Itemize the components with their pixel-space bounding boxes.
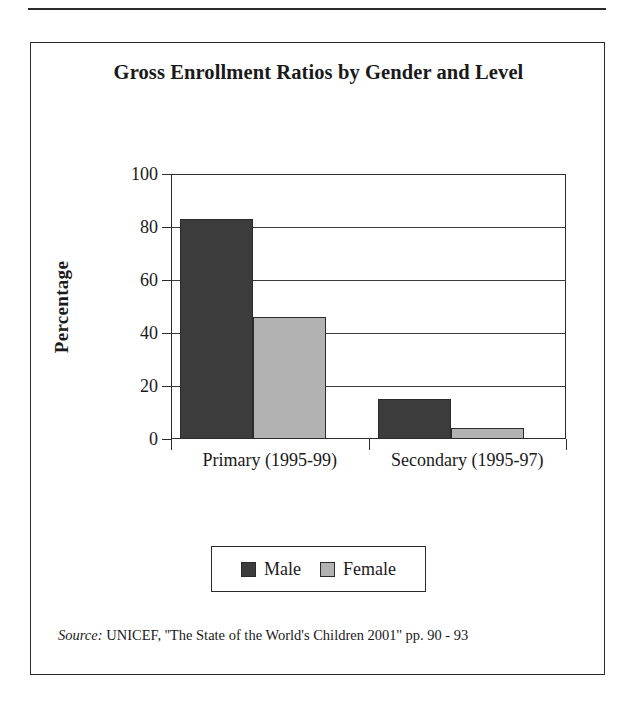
y-axis-tick [162, 333, 171, 334]
legend-swatch-female [320, 562, 335, 577]
legend-label: Male [264, 559, 301, 580]
bar-female-0 [253, 317, 326, 439]
top-horizontal-rule [28, 8, 606, 10]
y-axis-tick-label: 40 [94, 323, 158, 344]
bar-male-0 [180, 219, 253, 439]
source-text: UNICEF, ''The State of the World's Child… [103, 627, 469, 643]
y-axis-tick-label: 100 [94, 164, 158, 185]
x-axis-separator [369, 439, 370, 450]
x-axis-separator [171, 439, 172, 450]
y-axis-title-label: Percentage [51, 260, 73, 352]
source-label: Source: [58, 627, 103, 643]
figure-page: Gross Enrollment Ratios by Gender and Le… [0, 0, 636, 716]
y-axis-title: Percentage [49, 174, 75, 439]
figure-frame: Gross Enrollment Ratios by Gender and Le… [30, 42, 605, 675]
bar-female-1 [451, 428, 524, 439]
x-axis-category-label: Secondary (1995-97) [391, 450, 543, 471]
y-axis-tick-label: 20 [94, 376, 158, 397]
y-axis-tick [162, 386, 171, 387]
y-axis-tick [162, 439, 171, 440]
plot-area: 020406080100 Primary (1995-99)Secondary … [171, 174, 566, 439]
x-axis-category-label: Primary (1995-99) [203, 450, 337, 471]
y-axis-tick-label: 0 [94, 429, 158, 450]
legend-swatch-male [241, 562, 256, 577]
legend-item-male: Male [241, 559, 301, 580]
chart-legend: MaleFemale [211, 546, 426, 592]
chart-title: Gross Enrollment Ratios by Gender and Le… [91, 59, 546, 87]
legend-item-female: Female [320, 559, 396, 580]
y-axis-tick-label: 60 [94, 270, 158, 291]
y-axis-tick [162, 280, 171, 281]
source-note: Source: UNICEF, ''The State of the World… [58, 627, 578, 644]
y-axis-tick-label: 80 [94, 217, 158, 238]
y-axis-tick [162, 174, 171, 175]
y-axis-tick [162, 227, 171, 228]
bar-male-1 [378, 399, 451, 439]
legend-label: Female [343, 559, 396, 580]
bar-group [171, 174, 566, 439]
x-axis-separator [566, 439, 567, 450]
